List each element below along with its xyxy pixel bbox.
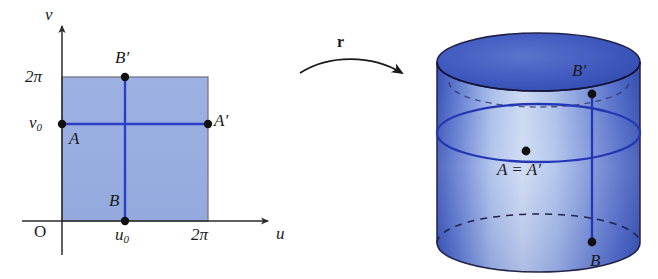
tick-v0-sub: 0 [37,121,43,133]
label-B-prime-domain: B′ [115,49,129,66]
label-A-equals-A-prime: A = A′ [497,161,541,178]
label-B-prime-domain-prime: ′ [125,48,129,67]
dot-A [58,120,66,128]
label-B-prime-cylinder: B′ [572,62,586,79]
origin-label: O [34,223,46,240]
label-A-domain: A [69,130,79,147]
label-A-prime-domain-letter: A [214,111,224,130]
dot-B-image [588,238,597,247]
dot-B [121,217,129,225]
domain-plot-graphics [0,0,658,279]
parametrization-figure: v u O 2π v0 u0 2π B′ A A′ B r B′ A = A′ … [0,0,658,279]
map-arrow [300,59,402,73]
label-A-equals-A-prime-prime: ′ [537,160,541,179]
label-B-domain: B [109,192,119,209]
dot-B-prime [121,73,129,81]
tick-v0: v0 [29,114,42,133]
tick-u0-sub: 0 [124,233,130,245]
u-axis-label: u [276,225,285,242]
parameter-square [62,77,208,221]
label-B-cylinder: B [590,252,600,269]
v-axis-label: v [45,6,53,23]
label-B-prime-cylinder-letter: B [572,61,582,80]
tick-u0-main: u [115,225,124,244]
cylinder-graphics [437,33,640,272]
label-A-prime-domain: A′ [214,112,228,129]
dot-A-prime [204,120,212,128]
label-B-prime-domain-letter: B [115,48,125,67]
tick-v0-main: v [29,113,37,132]
tick-u-2pi: 2π [191,226,208,243]
tick-u0: u0 [115,226,129,245]
dot-B-prime-image [588,90,597,99]
dot-A-equals-A-prime [522,147,531,156]
label-A-prime-domain-prime: ′ [224,111,228,130]
label-A-equals-A-prime-text: A = A [497,160,537,179]
tick-v-2pi: 2π [25,68,42,85]
label-B-prime-cylinder-prime: ′ [582,61,586,80]
map-arrow-label: r [337,34,344,50]
